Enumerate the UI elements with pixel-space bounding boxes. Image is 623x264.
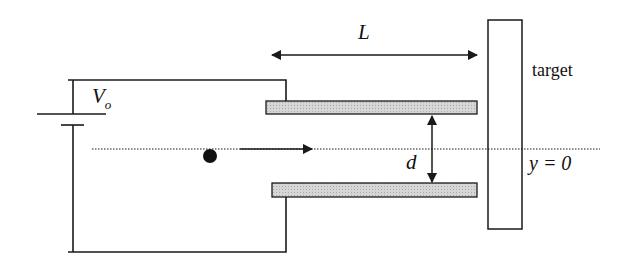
voltage-subscript: o	[105, 97, 112, 112]
top-plate	[266, 101, 477, 114]
bottom-plate	[272, 183, 477, 197]
voltage-label: Vo	[92, 86, 111, 107]
battery-icon	[37, 114, 106, 125]
deflection-diagram	[0, 0, 623, 264]
length-label: L	[358, 22, 370, 43]
target	[488, 20, 522, 229]
axis-label: y = 0	[529, 153, 571, 173]
particle	[203, 149, 217, 163]
voltage-symbol: V	[92, 84, 105, 108]
target-label: target	[532, 61, 573, 79]
separation-label: d	[406, 152, 417, 173]
